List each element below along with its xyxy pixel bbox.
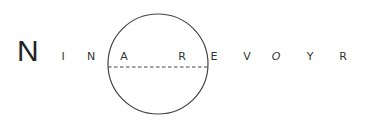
logo-letter-a: A [120,51,128,63]
logo-letter-n: N [87,51,95,63]
logo-letter-i: I [61,51,64,63]
logo-letter-y: Y [307,51,314,63]
nina-revoyr-logo: N I N A R E V O Y R [0,0,365,122]
logo-letter-r-final: R [339,51,347,63]
logo-letter-o: O [272,51,281,63]
logo-letter-r: R [178,51,186,63]
logo-letter-e: E [211,51,218,63]
logo-letter-v: V [243,51,251,63]
